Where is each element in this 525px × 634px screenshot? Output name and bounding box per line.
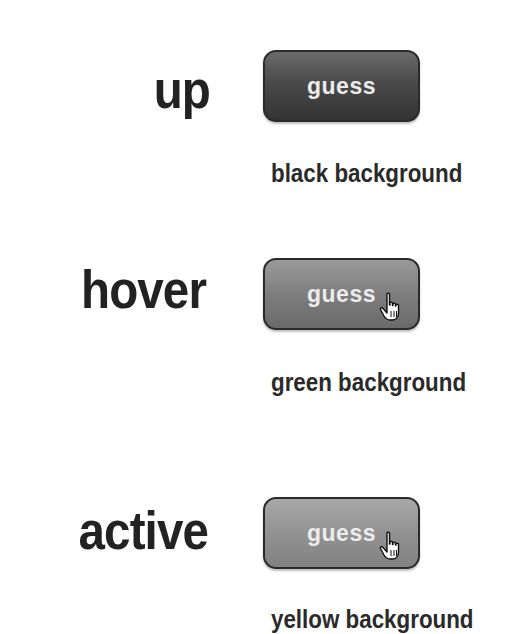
- guess-button-hover[interactable]: guess: [263, 258, 420, 330]
- state-label-up: up: [16, 62, 210, 116]
- caption-up: black background: [271, 160, 462, 186]
- state-label-hover: hover: [12, 262, 206, 316]
- guess-button-label: guess: [307, 520, 376, 547]
- hand-pointer-icon: [378, 531, 404, 561]
- hand-pointer-icon: [378, 292, 404, 322]
- guess-button-up[interactable]: guess: [263, 50, 420, 122]
- guess-button-active[interactable]: guess: [263, 497, 420, 569]
- guess-button-label: guess: [307, 73, 376, 100]
- guess-button-label: guess: [307, 281, 376, 308]
- caption-hover: green background: [271, 369, 466, 395]
- state-label-active: active: [14, 503, 208, 557]
- caption-active: yellow background: [271, 606, 474, 632]
